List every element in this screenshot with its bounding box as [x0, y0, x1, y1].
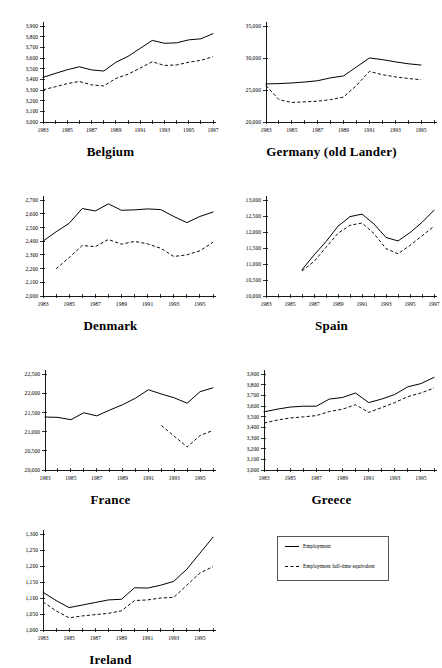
- x-tick-label-greece-12: 1995: [415, 475, 426, 481]
- x-tick-label-belgium-6: 1989: [110, 127, 121, 133]
- chart-svg-belgium: 3,0003,1003,2003,3003,4003,5003,6003,700…: [0, 4, 221, 154]
- y-tick-label-denmark-7: 2,700: [25, 197, 38, 203]
- series-belgium-fte: [43, 57, 213, 90]
- x-tick-label-greece-10: 1993: [389, 475, 400, 481]
- y-tick-label-belgium-3: 3,300: [25, 87, 38, 93]
- y-tick-label-denmark-4: 2,400: [25, 238, 38, 244]
- y-tick-label-france-5: 22,500: [25, 371, 41, 377]
- x-tick-label-france-12: 1995: [194, 475, 205, 481]
- y-tick-label-spain-5: 12,500: [246, 213, 262, 219]
- y-tick-label-denmark-1: 2,100: [25, 279, 38, 285]
- y-tick-label-denmark-0: 2,000: [25, 293, 38, 299]
- y-tick-label-belgium-5: 3,500: [25, 66, 38, 72]
- chart-legend: Employment Employment full-time equivale…: [277, 536, 389, 581]
- x-tick-label-germany-6: 1989: [338, 127, 349, 133]
- x-tick-label-spain-0: 1983: [260, 301, 271, 307]
- x-tick-label-france-4: 1987: [91, 475, 102, 481]
- chart-title-france: France: [0, 492, 221, 508]
- y-tick-label-spain-0: 10,000: [246, 293, 262, 299]
- x-tick-label-ireland-10: 1993: [168, 635, 179, 641]
- x-tick-label-spain-4: 1987: [308, 301, 319, 307]
- y-tick-label-greece-9: 3,900: [246, 371, 259, 377]
- series-france-fte: [161, 425, 213, 447]
- y-tick-label-denmark-3: 2,300: [25, 252, 38, 258]
- legend-label-employment-fte: Employment full-time equivalent: [303, 563, 375, 569]
- x-tick-label-france-8: 1991: [143, 475, 154, 481]
- x-tick-label-belgium-10: 1993: [159, 127, 170, 133]
- y-tick-label-belgium-8: 3,800: [25, 34, 38, 40]
- legend-entry-employment: Employment: [285, 543, 331, 549]
- x-tick-label-spain-2: 1985: [284, 301, 295, 307]
- y-tick-label-belgium-9: 3,900: [25, 23, 38, 29]
- x-tick-label-spain-6: 1989: [332, 301, 343, 307]
- y-tick-label-france-1: 20,500: [25, 448, 41, 454]
- x-tick-label-spain-12: 1995: [404, 301, 415, 307]
- x-tick-label-germany-8: 1991: [364, 127, 375, 133]
- y-tick-label-ireland-4: 1,200: [25, 563, 38, 569]
- chart-panel-ireland: 1,0001,0501,1001,1501,2001,2501,30019831…: [0, 512, 221, 668]
- chart-title-ireland: Ireland: [0, 652, 221, 668]
- y-tick-label-spain-3: 11,500: [246, 245, 261, 251]
- x-tick-label-denmark-10: 1993: [168, 301, 179, 307]
- y-tick-label-france-0: 20,000: [25, 467, 41, 473]
- legend-label-employment: Employment: [303, 543, 331, 549]
- x-tick-label-ireland-0: 1983: [37, 635, 48, 641]
- x-tick-label-spain-10: 1993: [380, 301, 391, 307]
- y-tick-label-greece-8: 3,800: [246, 382, 259, 388]
- y-tick-label-ireland-3: 1,150: [25, 579, 38, 585]
- y-tick-label-belgium-1: 3,100: [25, 108, 38, 114]
- chart-title-denmark: Denmark: [0, 318, 221, 334]
- y-tick-label-belgium-0: 3,000: [25, 119, 38, 125]
- y-tick-label-france-3: 21,500: [25, 410, 41, 416]
- chart-svg-ireland: 1,0001,0501,1001,1501,2001,2501,30019831…: [0, 512, 221, 662]
- x-tick-label-greece-4: 1987: [311, 475, 322, 481]
- series-belgium-employment: [43, 34, 213, 78]
- y-tick-label-germany-1: 25,000: [246, 87, 262, 93]
- y-tick-label-greece-5: 3,500: [246, 414, 259, 420]
- x-tick-label-belgium-14: 1997: [207, 127, 218, 133]
- x-tick-label-greece-6: 1989: [337, 475, 348, 481]
- series-greece-fte: [264, 388, 434, 423]
- chart-panel-belgium: 3,0003,1003,2003,3003,4003,5003,6003,700…: [0, 4, 221, 180]
- y-tick-label-greece-7: 3,700: [246, 392, 259, 398]
- y-tick-label-germany-2: 30,000: [246, 55, 262, 61]
- x-tick-label-denmark-0: 1983: [37, 301, 48, 307]
- x-tick-label-denmark-12: 1995: [194, 301, 205, 307]
- x-tick-label-germany-10: 1993: [390, 127, 401, 133]
- x-tick-label-germany-4: 1987: [312, 127, 323, 133]
- chart-title-spain: Spain: [221, 318, 442, 334]
- x-tick-label-ireland-8: 1991: [142, 635, 153, 641]
- x-tick-label-greece-8: 1991: [363, 475, 374, 481]
- chart-panel-germany: 20,00025,00030,00035,0001983198519871989…: [221, 4, 442, 180]
- y-tick-label-ireland-6: 1,300: [25, 531, 38, 537]
- y-tick-label-ireland-0: 1,000: [25, 627, 38, 633]
- x-tick-label-ireland-6: 1989: [116, 635, 127, 641]
- x-tick-label-denmark-6: 1989: [116, 301, 127, 307]
- chart-panel-spain: 10,00010,50011,00011,50012,00012,50013,0…: [221, 178, 442, 354]
- legend-line-solid-icon: [285, 546, 299, 547]
- x-tick-label-spain-8: 1991: [356, 301, 367, 307]
- y-tick-label-greece-6: 3,600: [246, 403, 259, 409]
- y-tick-label-france-2: 21,000: [25, 429, 41, 435]
- chart-svg-france: 20,00020,50021,00021,50022,00022,5001983…: [0, 352, 221, 502]
- x-tick-label-germany-2: 1985: [286, 127, 297, 133]
- x-tick-label-belgium-0: 1983: [37, 127, 48, 133]
- y-tick-label-greece-4: 3,400: [246, 424, 259, 430]
- y-tick-label-denmark-5: 2,500: [25, 225, 38, 231]
- y-tick-label-spain-4: 12,000: [246, 229, 262, 235]
- x-tick-label-france-10: 1993: [169, 475, 180, 481]
- y-tick-label-germany-3: 35,000: [246, 23, 262, 29]
- series-denmark-fte: [56, 240, 213, 269]
- chart-panel-denmark: 2,0002,1002,2002,3002,4002,5002,6002,700…: [0, 178, 221, 354]
- x-tick-label-belgium-8: 1991: [135, 127, 146, 133]
- y-tick-label-belgium-7: 3,700: [25, 44, 38, 50]
- y-tick-label-denmark-6: 2,600: [25, 211, 38, 217]
- series-ireland-employment: [43, 537, 213, 607]
- y-tick-label-belgium-2: 3,200: [25, 98, 38, 104]
- x-tick-label-france-6: 1989: [117, 475, 128, 481]
- y-tick-label-denmark-2: 2,200: [25, 266, 38, 272]
- y-tick-label-greece-2: 3,200: [246, 446, 259, 452]
- chart-title-greece: Greece: [221, 492, 442, 508]
- x-tick-label-belgium-4: 1987: [86, 127, 97, 133]
- y-tick-label-greece-3: 3,300: [246, 435, 259, 441]
